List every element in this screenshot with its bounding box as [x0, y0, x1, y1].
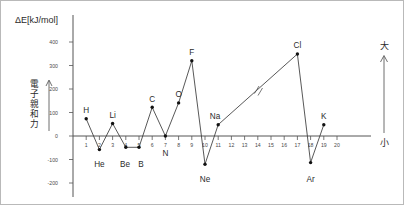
- data-point-O: [177, 101, 180, 104]
- vertical-label-char-4: 力: [30, 118, 39, 129]
- xtick-label-8: 8: [177, 142, 180, 148]
- point-label-O: O: [175, 90, 181, 99]
- data-point-C: [151, 106, 154, 109]
- data-point-Be: [124, 146, 127, 149]
- xtick-label-13: 13: [242, 142, 248, 148]
- point-label-H: H: [83, 106, 89, 115]
- point-label-Ne: Ne: [200, 175, 211, 184]
- point-label-Be: Be: [120, 160, 130, 169]
- data-point-Cl: [296, 52, 299, 55]
- ytick-label-200: 200: [49, 86, 58, 92]
- data-point-H: [85, 117, 88, 120]
- right-axis-arrow-icon: [381, 56, 388, 134]
- right-magnitude-scale: 大 小: [380, 40, 389, 148]
- point-label-He: He: [94, 160, 105, 169]
- right-axis-top-label: 大: [380, 40, 389, 51]
- data-point-Na: [217, 123, 220, 126]
- right-axis-bottom-label: 小: [380, 138, 389, 148]
- ytick-label-neg200: -200: [48, 180, 58, 186]
- ytick-label-0: 0: [55, 133, 58, 139]
- xtick-label-9: 9: [190, 142, 193, 148]
- y-axis-title: ΔE[kJ/mol]: [15, 15, 58, 25]
- xtick-label-1: 1: [85, 142, 88, 148]
- data-point-Ne: [203, 163, 206, 166]
- vertical-label-char-3: 和: [30, 109, 39, 119]
- vertical-label-char-2: 親: [30, 98, 39, 109]
- xtick-label-15: 15: [268, 142, 274, 148]
- xtick-label-3: 3: [111, 142, 114, 148]
- xtick-label-19: 19: [321, 142, 327, 148]
- y-axis-ticks: 400 300 200 100 0 -100 -200: [48, 39, 73, 186]
- data-point-He: [98, 148, 101, 151]
- ytick-label-400: 400: [49, 39, 58, 45]
- point-label-F: F: [189, 48, 194, 57]
- ytick-label-300: 300: [49, 63, 58, 69]
- point-label-Ar: Ar: [307, 175, 315, 184]
- data-point-K: [322, 123, 325, 126]
- point-label-Na: Na: [210, 112, 221, 121]
- data-point-Li: [111, 122, 114, 125]
- xtick-label-11: 11: [216, 142, 221, 148]
- ytick-label-100: 100: [49, 110, 58, 116]
- vertical-label-char-0: 電: [30, 79, 39, 89]
- xtick-label-6: 6: [151, 142, 154, 148]
- ytick-label-neg100: -100: [48, 157, 58, 163]
- point-label-N: N: [162, 149, 168, 158]
- xtick-label-14: 14: [255, 142, 261, 148]
- xtick-label-20: 20: [334, 142, 340, 148]
- point-label-C: C: [149, 95, 155, 104]
- axis-break-icon: [255, 86, 263, 96]
- data-point-Ar: [309, 161, 312, 164]
- data-point-F: [190, 59, 193, 62]
- electron-affinity-chart: ΔE[kJ/mol] 電 子 親 和 力 400 300 200 100: [1, 1, 404, 205]
- xtick-label-7: 7: [164, 142, 167, 148]
- point-label-Li: Li: [109, 111, 116, 120]
- point-label-K: K: [321, 112, 327, 121]
- data-point-B: [137, 146, 140, 149]
- xtick-label-17: 17: [295, 142, 301, 148]
- xtick-label-16: 16: [281, 142, 287, 148]
- y-axis-vertical-label: 電 子 親 和 力: [30, 79, 39, 129]
- point-label-Cl: Cl: [294, 41, 302, 50]
- chart-frame: ΔE[kJ/mol] 電 子 親 和 力 400 300 200 100: [0, 0, 404, 205]
- data-points: [85, 52, 326, 166]
- xtick-label-12: 12: [229, 142, 235, 148]
- data-point-N: [164, 134, 167, 137]
- vertical-label-char-1: 子: [30, 89, 39, 99]
- point-label-B: B: [138, 160, 144, 169]
